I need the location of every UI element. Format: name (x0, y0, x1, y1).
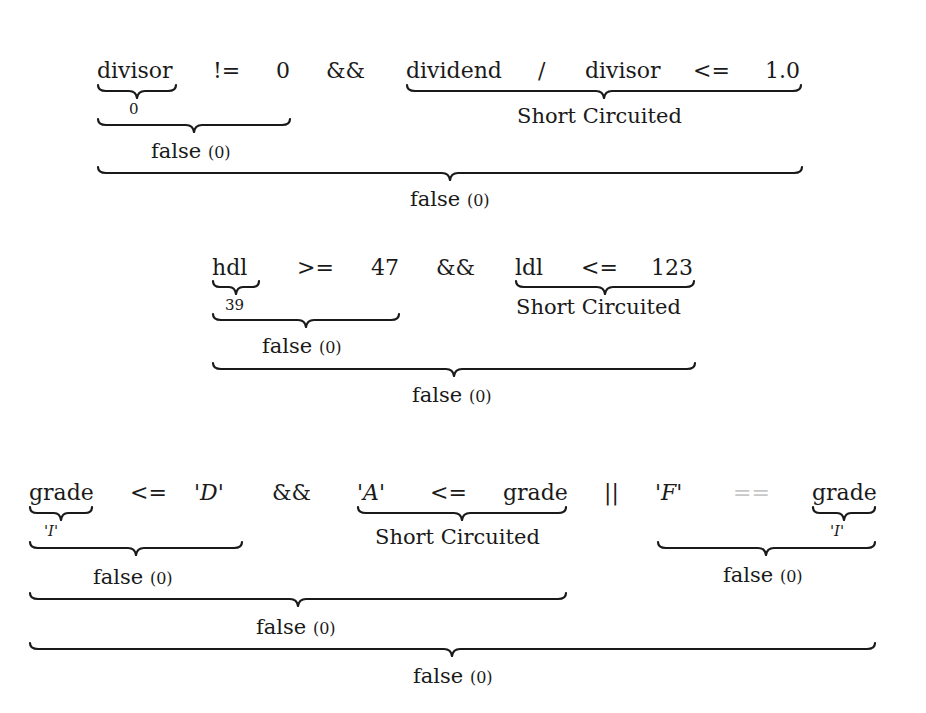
underbrace-icon (29, 642, 876, 658)
underbrace-icon (97, 118, 291, 134)
token-divisor-2: divisor (585, 60, 661, 82)
token-grade-3: grade (812, 482, 877, 504)
underbrace-icon (406, 84, 802, 100)
divisor-value: 0 (129, 102, 139, 117)
underbrace-icon (515, 280, 695, 296)
token-char-a: 'A' (357, 482, 385, 504)
token-ldl: ldl (515, 257, 543, 279)
token-47: 47 (371, 257, 399, 279)
underbrace-icon (97, 166, 803, 182)
grade-value-left: 'I' (44, 524, 58, 539)
token-less-equal-2: <= (430, 482, 467, 504)
and-result-label: false (0) (256, 617, 336, 638)
token-not-equal: != (213, 60, 240, 82)
short-circuit-label: Short Circuited (375, 527, 540, 548)
or-right-result-label: false (0) (723, 565, 803, 586)
underbrace-icon (29, 541, 243, 557)
token-greater-equal: >= (297, 257, 334, 279)
token-one-point-zero: 1.0 (765, 60, 800, 82)
token-hdl: hdl (212, 257, 247, 279)
underbrace-icon (29, 506, 93, 522)
token-dividend: dividend (406, 60, 502, 82)
token-divide: / (538, 60, 545, 82)
underbrace-icon (657, 541, 876, 557)
underbrace-icon (212, 362, 696, 378)
token-zero: 0 (276, 60, 290, 82)
left-result-label: false (0) (151, 141, 231, 162)
underbrace-icon (212, 280, 260, 296)
token-char-f: 'F' (655, 482, 682, 504)
left-result-label: false (0) (93, 567, 173, 588)
underbrace-icon (29, 592, 567, 608)
token-and: && (272, 482, 311, 504)
short-circuit-label: Short Circuited (516, 297, 681, 318)
hdl-value: 39 (225, 298, 244, 313)
token-divisor: divisor (97, 60, 173, 82)
token-123: 123 (651, 257, 693, 279)
underbrace-icon (357, 506, 567, 522)
grade-value-right: 'I' (830, 524, 844, 539)
token-less-equal: <= (693, 60, 730, 82)
token-grade: grade (29, 482, 94, 504)
underbrace-icon (212, 313, 400, 329)
short-circuit-label: Short Circuited (517, 106, 682, 127)
token-equal-equal: == (733, 482, 770, 504)
total-result-label: false (0) (413, 666, 493, 687)
total-result-label: false (0) (410, 189, 490, 210)
token-and: && (326, 60, 365, 82)
token-and: && (436, 257, 475, 279)
underbrace-icon (812, 506, 876, 522)
left-result-label: false (0) (262, 336, 342, 357)
token-char-d: 'D' (194, 482, 224, 504)
token-less-equal: <= (130, 482, 167, 504)
token-or: || (604, 482, 619, 504)
token-less-equal: <= (581, 257, 618, 279)
underbrace-icon (97, 84, 177, 100)
total-result-label: false (0) (412, 385, 492, 406)
token-grade-2: grade (503, 482, 568, 504)
